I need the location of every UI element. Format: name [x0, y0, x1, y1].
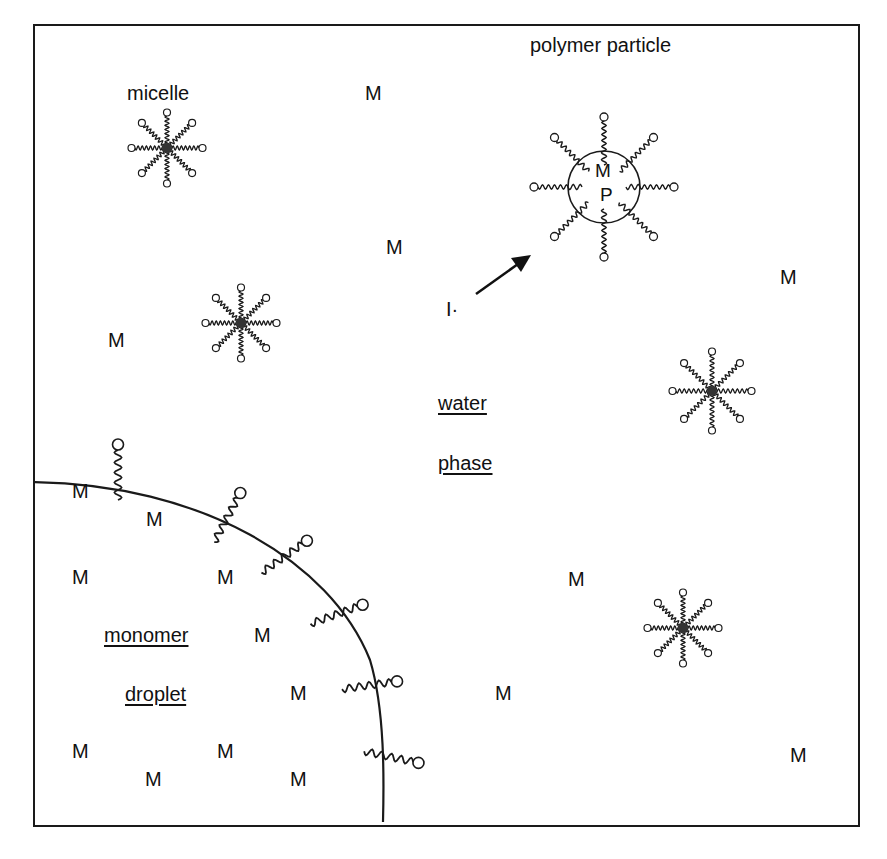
monomer-symbol: M: [365, 82, 382, 104]
monomer-droplet-boundary: [33, 482, 384, 822]
particle-label-p: P: [600, 184, 613, 206]
monomer-symbol: M: [217, 740, 234, 762]
label-droplet: droplet: [125, 683, 186, 705]
arrow-icon: [476, 255, 531, 294]
monomer-symbol: M: [495, 682, 512, 704]
label-phase: phase: [438, 452, 493, 474]
monomer-symbol: M: [290, 768, 307, 790]
label-micelle: micelle: [127, 82, 189, 104]
micelle-icon: [128, 109, 206, 187]
monomer-symbol: M: [254, 624, 271, 646]
micelle-icon: [202, 284, 280, 362]
monomer-symbol: M: [217, 566, 234, 588]
monomer-symbol: M: [72, 740, 89, 762]
label-water: water: [438, 392, 487, 414]
surfactant-molecule: [261, 535, 312, 574]
label-initiator-radical: I·: [446, 298, 458, 320]
monomer-symbol: M: [146, 508, 163, 530]
monomer-symbol: M: [145, 768, 162, 790]
droplet-surfactants: [113, 439, 424, 768]
surfactant-molecule: [310, 599, 368, 626]
micelle-icon: [669, 348, 755, 434]
label-monomer: monomer: [104, 624, 188, 646]
monomer-symbol: M: [108, 329, 125, 351]
monomer-symbol: M: [386, 236, 403, 258]
surfactant-molecule: [364, 749, 424, 768]
monomer-symbol: M: [72, 480, 89, 502]
monomer-symbol: M: [72, 566, 89, 588]
diagram-artwork: [0, 0, 887, 859]
surfactant-molecule: [342, 676, 402, 692]
label-polymer-particle: polymer particle: [530, 34, 671, 56]
emulsion-polymerization-diagram: micelle polymer particle I· water phase …: [0, 0, 887, 859]
monomer-symbol: M: [290, 682, 307, 704]
micelle-icon: [644, 589, 722, 667]
particle-label-m: M: [595, 160, 611, 182]
monomer-symbol: M: [790, 744, 807, 766]
surfactant-molecule: [214, 488, 246, 543]
monomer-symbol: M: [780, 266, 797, 288]
monomer-symbol: M: [568, 568, 585, 590]
